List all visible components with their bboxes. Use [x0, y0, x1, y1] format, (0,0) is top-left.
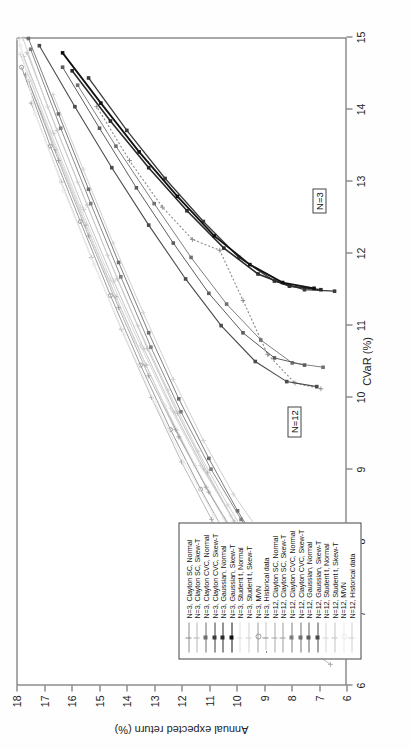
legend-swatch — [244, 622, 252, 652]
legend-item: N=3, Student t, Normal — [236, 529, 245, 652]
y-tick-label: 15 — [93, 695, 105, 707]
legend-item: N=12, Gaussian, Normal — [304, 529, 313, 652]
legend-label: N=12, Student t, Normal — [321, 543, 330, 618]
legend-swatch — [296, 622, 304, 652]
legend-item: N=12, Gaussian, Skew-T — [313, 529, 322, 652]
legend-label: N=3, Gaussian, Normal — [218, 545, 227, 618]
series-3 — [86, 76, 336, 293]
legend-swatch — [348, 622, 356, 652]
figure: 67891011121314156789101112131415161718 C… — [0, 0, 410, 749]
y-tick — [236, 685, 237, 691]
series-19 — [50, 92, 325, 571]
legend-label: N=12, Clayton SC, Skew-T — [278, 534, 287, 618]
legend-swatch — [305, 622, 313, 652]
x-tick-label: 11 — [354, 320, 366, 331]
legend-item: N=12, Clayton SC, Normal — [270, 529, 279, 652]
legend-label: N=12, Historical data — [347, 553, 356, 618]
legend-swatch — [193, 622, 201, 652]
x-axis-title: CVaR (%) — [360, 337, 372, 386]
y-tick — [181, 685, 182, 691]
x-tick-label: 13 — [354, 175, 366, 187]
legend-swatch — [236, 622, 244, 652]
legend-item: N=12, MVN — [339, 529, 348, 652]
legend-item: N=3, Gaussian, Skew-T — [227, 529, 236, 652]
legend-swatch — [201, 622, 209, 652]
y-tick-label: 13 — [148, 695, 160, 707]
legend-item: N=12, Clayton CVC, Normal — [287, 529, 296, 652]
annotation-n3: N=3 — [312, 188, 326, 214]
legend-item: N=12, Student t, Skew-T — [330, 529, 339, 652]
legend-item: N=12, Clayton SC, Skew-T — [279, 529, 288, 652]
y-tick — [291, 685, 292, 691]
legend-swatch — [287, 622, 295, 652]
legend-swatch — [227, 622, 235, 652]
series-13 — [75, 83, 324, 369]
series-9 — [94, 104, 323, 391]
y-tick-label: 12 — [175, 695, 187, 707]
legend-label: N=12, Clayton SC, Normal — [270, 536, 279, 619]
series-14 — [60, 65, 305, 366]
y-tick — [126, 685, 127, 691]
y-tick — [209, 685, 210, 691]
x-tick-label: 6 — [354, 682, 366, 688]
legend-swatch — [270, 622, 278, 652]
legend-swatch — [279, 622, 287, 652]
x-tick — [346, 36, 352, 37]
legend-item: N=3, Student t, Skew-T — [244, 529, 253, 652]
legend-swatch — [262, 622, 270, 652]
y-tick — [264, 685, 265, 691]
x-tick — [346, 180, 352, 181]
y-tick — [154, 685, 155, 691]
y-tick-label: 11 — [203, 695, 215, 706]
legend-item: N=3, Clayton CVC, Normal — [201, 529, 210, 652]
legend-swatch — [322, 622, 330, 652]
x-tick — [346, 252, 352, 253]
legend-label: N=12, Gaussian, Skew-T — [313, 540, 322, 618]
x-tick-label: 14 — [354, 103, 366, 115]
legend-label: N=12, Gaussian, Normal — [304, 541, 313, 618]
y-tick-label: 9 — [258, 695, 270, 701]
y-axis-title: Annual expected return (%) — [114, 723, 248, 735]
annotation-n12: N=12 — [287, 406, 301, 437]
legend-label: N=3, Gaussian, Skew-T — [227, 544, 236, 618]
legend-swatch — [313, 622, 321, 652]
y-tick — [44, 685, 45, 691]
legend-label: N=3, MVN — [253, 585, 262, 618]
x-tick-label: 9 — [354, 466, 366, 472]
legend-label: N=12, Student t, Skew-T — [330, 542, 339, 618]
legend-label: N=3, Student t, Normal — [235, 547, 244, 618]
legend-label: N=3, Historical data — [261, 557, 270, 618]
y-tick — [346, 685, 347, 691]
x-tick-label: 15 — [354, 31, 366, 43]
legend-item: N=3, Clayton SC, Skew-T — [193, 529, 202, 652]
legend-item: N=3, Historical data — [261, 529, 270, 652]
chart-page: 67891011121314156789101112131415161718 C… — [0, 0, 410, 749]
legend-swatch — [219, 622, 227, 652]
x-tick-label: 10 — [354, 391, 366, 403]
legend-label: N=3, Clayton CVC, Normal — [201, 534, 210, 618]
legend-item: N=3, Clayton CVC, Skew-T — [210, 529, 219, 652]
legend-swatch — [184, 622, 192, 652]
legend-label: N=3, Clayton SC, Skew-T — [192, 538, 201, 618]
x-tick-label: 12 — [354, 247, 366, 259]
legend-item: N=12, Student t, Normal — [322, 529, 331, 652]
legend-item: N=12, Historical data — [347, 529, 356, 652]
legend-label: N=12, Clayton CVC, Normal — [287, 530, 296, 618]
y-tick — [319, 685, 320, 691]
legend-label: N=12, Clayton CVC, Skew-T — [296, 529, 305, 618]
y-tick — [16, 685, 17, 691]
legend-swatch — [210, 622, 218, 652]
y-tick — [99, 685, 100, 691]
x-tick — [346, 324, 352, 325]
x-tick — [346, 108, 352, 109]
y-tick-label: 7 — [313, 695, 325, 701]
chart-legend: N=3, Clayton SC, NormalN=3, Clayton SC, … — [178, 522, 361, 659]
y-tick-label: 14 — [120, 695, 132, 707]
rotated-figure-wrapper: 67891011121314156789101112131415161718 C… — [0, 0, 410, 749]
legend-label: N=3, Student t, Skew-T — [244, 546, 253, 618]
y-tick-label: 10 — [230, 695, 242, 707]
legend-swatch — [339, 622, 347, 652]
y-tick-label: 6 — [340, 695, 352, 701]
series-5 — [60, 51, 315, 290]
legend-item: N=3, Gaussian, Normal — [218, 529, 227, 652]
